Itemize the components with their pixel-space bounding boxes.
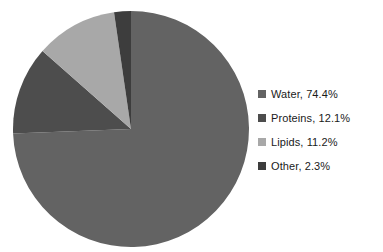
legend-item-water[interactable]: Water, 74.4%	[258, 82, 383, 106]
legend-swatch-icon	[258, 90, 266, 98]
legend-item-label: Other, 2.3%	[271, 160, 330, 172]
legend-swatch-icon	[258, 114, 266, 122]
legend-item-label: Lipids, 11.2%	[271, 136, 338, 148]
chart-legend: Water, 74.4%Proteins, 12.1%Lipids, 11.2%…	[258, 82, 383, 178]
legend-item-proteins[interactable]: Proteins, 12.1%	[258, 106, 383, 130]
pie-plot-area	[12, 10, 250, 248]
pie-chart-figure: Water, 74.4%Proteins, 12.1%Lipids, 11.2%…	[0, 0, 383, 252]
legend-item-lipids[interactable]: Lipids, 11.2%	[258, 130, 383, 154]
pie-slice-group	[13, 11, 249, 247]
pie-svg	[12, 10, 250, 248]
legend-item-label: Water, 74.4%	[271, 88, 338, 100]
legend-item-label: Proteins, 12.1%	[271, 112, 350, 124]
legend-swatch-icon	[258, 138, 266, 146]
clipped-chart-title	[0, 0, 383, 3]
legend-swatch-icon	[258, 162, 266, 170]
legend-item-other[interactable]: Other, 2.3%	[258, 154, 383, 178]
